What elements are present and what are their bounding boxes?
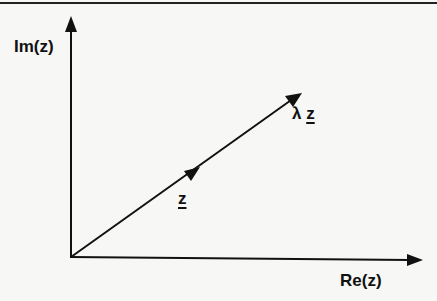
imaginary-axis-label: Im(z): [14, 38, 54, 55]
complex-plane-diagram: [0, 0, 437, 301]
vector-lambda-z-symbol: z: [306, 104, 315, 123]
vector-z-arrowhead-icon: [184, 167, 200, 181]
real-axis-arrowhead-icon: [407, 254, 423, 266]
real-axis: [70, 257, 410, 260]
vector-z-symbol: z: [178, 189, 187, 208]
real-axis-label: Re(z): [340, 272, 382, 289]
lambda-symbol: λ: [292, 104, 301, 123]
vector-lambda-z-label: λ z: [292, 105, 315, 122]
vector-z-label: z: [178, 190, 187, 207]
imaginary-axis-arrowhead-icon: [65, 16, 77, 32]
vector-lambda-z-line: [71, 98, 294, 257]
